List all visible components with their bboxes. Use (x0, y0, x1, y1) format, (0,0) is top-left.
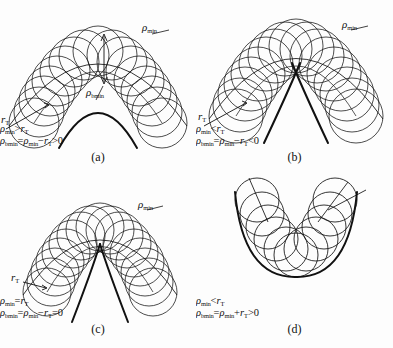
label-r-t-c: rT (11, 272, 19, 283)
equation-line-2-b: ρbmin=ρmin−rT<0 (196, 135, 259, 147)
panel-caption-d: (d) (196, 322, 393, 337)
panel-d: ρmin<rT ρbmin=ρmin+rT>0 (d) (196, 170, 393, 348)
equation-line-1-a: ρmin>rT (0, 123, 28, 135)
radial-lines-d (249, 178, 366, 222)
inner-envelope-b (264, 63, 328, 143)
equation-line-1-b: ρmin<rT (196, 123, 224, 135)
figure-grid: ρmin ρbmin rT ρmin>rT ρbmin=ρmin−rT>0 (a… (0, 0, 393, 348)
equation-line-1-c: ρmin=rT (0, 295, 28, 307)
equation-line-1-d: ρmin<rT (196, 295, 224, 307)
swept-circles-d (235, 178, 357, 277)
label-rho-min-b: ρmin (342, 19, 357, 30)
label-rho-bmin-a: ρbmin (86, 87, 104, 98)
panel-caption-b: (b) (196, 150, 393, 165)
panel-c: ρmin rT ρmin=rT ρbmin=ρmin−rT=0 (c) (0, 170, 196, 348)
equation-line-2-d: ρbmin=ρmin+rT>0 (196, 307, 259, 319)
swept-circles-c (23, 203, 177, 316)
label-rho-min-c: ρmin (138, 199, 153, 210)
inner-envelope-c (72, 244, 128, 322)
panel-a: ρmin ρbmin rT ρmin>rT ρbmin=ρmin−rT>0 (a… (0, 0, 196, 170)
label-rho-min-a: ρmin (142, 22, 157, 33)
panel-caption-c: (c) (0, 322, 196, 337)
inner-envelope-a (59, 113, 137, 148)
panel-b: ρmin rT ρmin<rT ρbmin=ρmin−rT<0 (b) (196, 0, 393, 170)
panel-caption-a: (a) (0, 150, 196, 165)
equation-line-2-a: ρbmin=ρmin−rT>0 (0, 135, 63, 147)
label-r-t-b: rT (198, 111, 206, 122)
rt-leader-c (23, 282, 47, 290)
equation-line-2-c: ρbmin=ρmin−rT=0 (0, 307, 63, 319)
swept-circles-b (209, 19, 383, 143)
